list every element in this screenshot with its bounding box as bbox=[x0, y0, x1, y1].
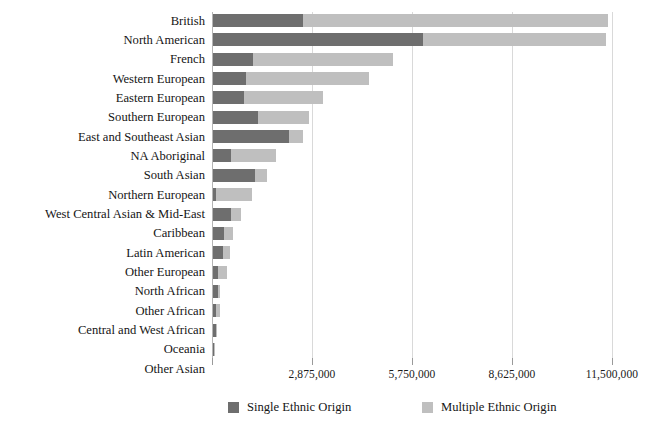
category-label: Southern European bbox=[0, 111, 205, 124]
legend-swatch-multiple-icon bbox=[422, 402, 433, 413]
bar-segment-single[interactable] bbox=[213, 169, 255, 182]
bar-segment-single[interactable] bbox=[213, 227, 224, 240]
bar-row[interactable] bbox=[213, 343, 613, 356]
bar-row[interactable] bbox=[213, 208, 613, 221]
bar-segment-multiple[interactable] bbox=[223, 246, 230, 259]
bar-segment-multiple[interactable] bbox=[289, 130, 303, 143]
legend-label-single: Single Ethnic Origin bbox=[247, 400, 351, 415]
category-label: North African bbox=[0, 285, 205, 298]
bar-segment-multiple[interactable] bbox=[258, 111, 309, 124]
bar-segment-single[interactable] bbox=[213, 111, 258, 124]
legend-label-multiple: Multiple Ethnic Origin bbox=[441, 400, 556, 415]
category-label: NA Aboriginal bbox=[0, 150, 205, 163]
bar-segment-multiple[interactable] bbox=[303, 14, 608, 27]
bar-row[interactable] bbox=[213, 111, 613, 124]
bar-segment-single[interactable] bbox=[213, 53, 253, 66]
bar-row[interactable] bbox=[213, 14, 613, 27]
bar-segment-multiple[interactable] bbox=[216, 304, 220, 317]
bar-row[interactable] bbox=[213, 246, 613, 259]
bar-segment-single[interactable] bbox=[213, 246, 223, 259]
bar-row[interactable] bbox=[213, 227, 613, 240]
bar-row[interactable] bbox=[213, 304, 613, 317]
bar-segment-single[interactable] bbox=[213, 14, 303, 27]
category-label: Caribbean bbox=[0, 227, 205, 240]
bar-segment-multiple[interactable] bbox=[216, 324, 217, 337]
bar-segment-single[interactable] bbox=[213, 130, 289, 143]
bar-segment-multiple[interactable] bbox=[216, 188, 252, 201]
bar-row[interactable] bbox=[213, 53, 613, 66]
category-label: Other European bbox=[0, 266, 205, 279]
bar-row[interactable] bbox=[213, 169, 613, 182]
bar-segment-multiple[interactable] bbox=[218, 285, 220, 298]
bar-segment-multiple[interactable] bbox=[253, 53, 393, 66]
bar-segment-single[interactable] bbox=[213, 208, 231, 221]
category-label: French bbox=[0, 53, 205, 66]
category-label: East and Southeast Asian bbox=[0, 131, 205, 144]
legend-item-single-ethnic-origin[interactable]: Single Ethnic Origin bbox=[228, 400, 351, 415]
bar-segment-multiple[interactable] bbox=[231, 208, 241, 221]
bar-row[interactable] bbox=[213, 33, 613, 46]
ethnic-origin-bar-chart: 2,875,0005,750,0008,625,00011,500,000 Br… bbox=[0, 0, 660, 428]
bar-row[interactable] bbox=[213, 72, 613, 85]
bar-segment-single[interactable] bbox=[213, 149, 231, 162]
legend-item-multiple-ethnic-origin[interactable]: Multiple Ethnic Origin bbox=[422, 400, 556, 415]
bar-row[interactable] bbox=[213, 91, 613, 104]
bar-row[interactable] bbox=[213, 362, 613, 375]
category-label: Other Asian bbox=[0, 363, 205, 376]
chart-legend: Single Ethnic Origin Multiple Ethnic Ori… bbox=[0, 400, 660, 420]
category-label: Western European bbox=[0, 73, 205, 86]
bar-segment-multiple[interactable] bbox=[218, 266, 227, 279]
category-label: Latin American bbox=[0, 247, 205, 260]
bar-segment-single[interactable] bbox=[213, 33, 423, 46]
bar-segment-multiple[interactable] bbox=[246, 72, 369, 85]
category-label: West Central Asian & Mid-East bbox=[0, 208, 205, 221]
bar-row[interactable] bbox=[213, 324, 613, 337]
bar-segment-multiple[interactable] bbox=[423, 33, 606, 46]
bar-row[interactable] bbox=[213, 266, 613, 279]
bar-row[interactable] bbox=[213, 188, 613, 201]
category-label: Other African bbox=[0, 305, 205, 318]
category-label: Eastern European bbox=[0, 92, 205, 105]
category-label: Central and West African bbox=[0, 324, 205, 337]
bar-segment-single[interactable] bbox=[213, 72, 246, 85]
bar-row[interactable] bbox=[213, 149, 613, 162]
bar-segment-multiple[interactable] bbox=[244, 91, 323, 104]
bar-segment-single[interactable] bbox=[213, 91, 244, 104]
category-label: Northern European bbox=[0, 189, 205, 202]
category-label: British bbox=[0, 15, 205, 28]
category-label: Oceania bbox=[0, 343, 205, 356]
bar-segment-multiple[interactable] bbox=[224, 227, 233, 240]
bar-row[interactable] bbox=[213, 285, 613, 298]
legend-swatch-single-icon bbox=[228, 402, 239, 413]
bar-segment-multiple[interactable] bbox=[255, 169, 267, 182]
category-label: South Asian bbox=[0, 169, 205, 182]
bar-row[interactable] bbox=[213, 130, 613, 143]
bar-segment-multiple[interactable] bbox=[214, 343, 215, 356]
category-label: North American bbox=[0, 34, 205, 47]
bar-segment-multiple[interactable] bbox=[231, 149, 276, 162]
